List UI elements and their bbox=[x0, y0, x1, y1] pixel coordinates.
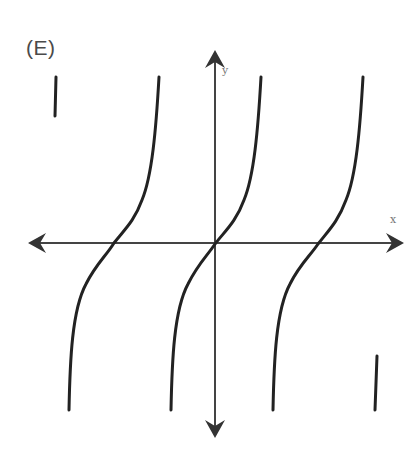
y-axis-label: y bbox=[222, 64, 228, 77]
curve-right-partial bbox=[375, 356, 377, 410]
graph bbox=[0, 0, 417, 453]
curve-left-partial bbox=[55, 77, 56, 116]
x-axis-label: x bbox=[390, 213, 396, 226]
